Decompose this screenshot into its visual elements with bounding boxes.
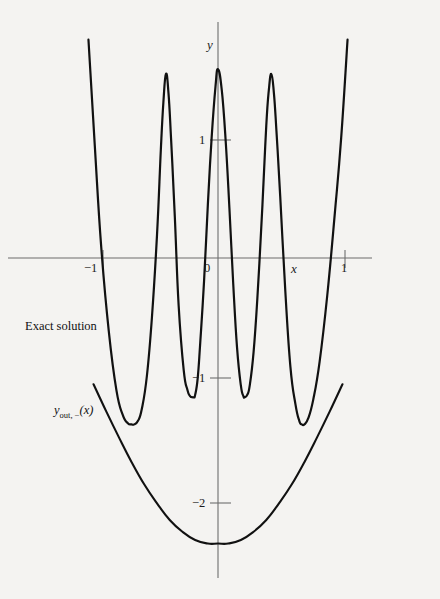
x-tick-label-minus-1: −1 (84, 262, 97, 275)
figure-caption (18, 591, 430, 599)
y-axis-label: y (207, 38, 213, 51)
outer-solution-annotation: yout, −(x) (54, 404, 93, 419)
outer-solution-arg: (x) (79, 403, 93, 417)
y-tick-label-minus-2: −2 (192, 497, 205, 510)
origin-label: 0 (204, 262, 210, 275)
y-tick-label-minus-1: −1 (192, 372, 205, 385)
plot-canvas (0, 0, 440, 599)
x-axis-label: x (291, 262, 297, 275)
y-tick-label-plus-1: 1 (199, 134, 205, 147)
outer-solution-subscript: out, − (60, 410, 80, 420)
exact-solution-annotation: Exact solution (25, 320, 97, 333)
x-tick-label-plus-1: 1 (341, 262, 347, 275)
figure-container: −1 1 0 1 −1 −2 y x Exact solution yout, … (0, 0, 440, 599)
